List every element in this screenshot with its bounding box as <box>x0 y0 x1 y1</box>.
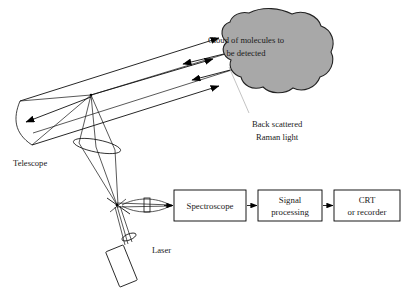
laser-label: Laser <box>152 245 171 255</box>
relay-ray-right-lower <box>115 150 118 205</box>
telescope-label: Telescope <box>13 158 47 168</box>
relay-ray-left-upper <box>79 95 91 143</box>
crt-recorder-label-line1: CRT <box>359 195 376 205</box>
signal-chain-group: Spectroscope Signal processing CRT or re… <box>174 190 400 221</box>
aperture-stop <box>144 198 150 212</box>
telescope-group: Telescope <box>13 95 91 168</box>
return-envelope-lower <box>33 68 238 133</box>
diagram-canvas: Cloud of molecules to be detected Back s… <box>0 0 413 291</box>
telescope-focus-arrow <box>26 97 91 122</box>
relay-optics-group <box>72 94 121 205</box>
backscatter-label-line2: Raman light <box>256 132 299 142</box>
signal-processing-label-line2: processing <box>271 207 309 217</box>
outgoing-beam-top <box>20 38 219 101</box>
box-crt-recorder[interactable]: CRT or recorder <box>334 190 400 221</box>
molecule-cloud-group: Cloud of molecules to be detected <box>208 9 333 93</box>
laser-head <box>106 245 138 287</box>
outgoing-beam-group <box>20 38 219 145</box>
relay-ray-right-upper <box>91 95 115 150</box>
laser-group: Laser <box>106 206 172 287</box>
raman-lidar-diagram: Cloud of molecules to be detected Back s… <box>0 0 413 291</box>
cloud-label-line2: be detected <box>227 48 267 58</box>
signal-processing-label-line1: Signal <box>279 195 302 205</box>
backscatter-label-line1: Back scattered <box>252 119 303 129</box>
box-spectroscope[interactable]: Spectroscope <box>174 190 246 221</box>
coupling-ray-bottom <box>117 206 172 207</box>
telescope-mirror-arc <box>16 101 32 145</box>
coupling-optics-group <box>117 198 173 212</box>
spectroscope-box-label: Spectroscope <box>187 201 234 211</box>
mirror-ray-bottom <box>32 95 91 145</box>
cloud-label-line1: Cloud of molecules to <box>208 35 284 45</box>
collecting-lens <box>72 135 121 156</box>
box-signal-processing[interactable]: Signal processing <box>258 190 322 221</box>
laser-beam-left <box>115 207 125 245</box>
outgoing-beam-lower <box>32 86 219 145</box>
crt-recorder-label-line2: or recorder <box>348 207 387 217</box>
